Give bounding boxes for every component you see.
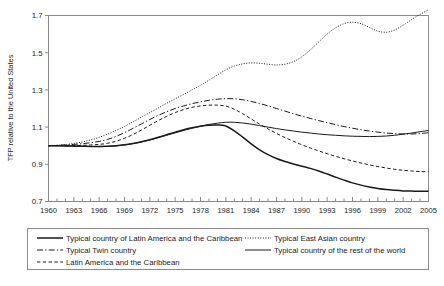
y-tick-label: 1.3 — [32, 86, 43, 95]
legend-label-left-1: Typical Twin country — [66, 246, 136, 255]
x-tick-label: 1978 — [192, 206, 209, 215]
x-tick-label: 1993 — [319, 206, 336, 215]
x-tick-label: 2005 — [420, 206, 437, 215]
x-tick-label: 1999 — [369, 206, 386, 215]
tfp-line-chart: 0.70.91.11.31.51.7 196019631966196919721… — [0, 0, 444, 286]
legend: Typical country of Latin America and the… — [28, 229, 429, 270]
legend-label-right-0: Typical East Asian country — [274, 234, 365, 243]
legend-label-right-1: Typical country of the rest of the world — [274, 246, 405, 255]
series-lines — [49, 10, 429, 191]
plot-frame — [49, 16, 429, 202]
x-tick-label: 1996 — [344, 206, 361, 215]
x-tick-label: 1969 — [116, 206, 133, 215]
x-tick-label: 2002 — [395, 206, 412, 215]
x-tick-label: 1972 — [141, 206, 158, 215]
x-tick-label: 1960 — [40, 206, 57, 215]
x-tick-label: 1963 — [65, 206, 82, 215]
y-axis-ticks — [45, 16, 49, 202]
x-axis-tick-labels: 1960196319661969197219751978198119841987… — [40, 206, 437, 215]
x-axis-ticks — [49, 197, 429, 202]
y-axis-tick-labels: 0.70.91.11.31.51.7 — [32, 11, 44, 206]
y-tick-label: 1.7 — [32, 11, 43, 20]
series-line-3 — [49, 10, 429, 146]
y-tick-label: 1.5 — [32, 49, 44, 58]
legend-entries: Typical country of Latin America and the… — [37, 234, 405, 267]
x-tick-label: 1966 — [91, 206, 108, 215]
y-tick-label: 1.1 — [32, 123, 43, 132]
x-tick-label: 1975 — [167, 206, 184, 215]
x-tick-label: 1984 — [243, 206, 260, 215]
y-tick-label: 0.9 — [32, 160, 43, 169]
y-axis-title: TFP relative to the United States — [6, 54, 15, 161]
series-line-2 — [49, 105, 429, 172]
legend-label-left-2: Latin America and the Caribbean — [66, 258, 180, 267]
series-line-0 — [49, 125, 429, 191]
legend-label-left-0: Typical country of Latin America and the… — [66, 234, 242, 243]
x-tick-label: 1990 — [293, 206, 310, 215]
plot-area: 0.70.91.11.31.51.7 196019631966196919721… — [32, 10, 437, 215]
x-tick-label: 1987 — [268, 206, 285, 215]
x-tick-label: 1981 — [217, 206, 234, 215]
